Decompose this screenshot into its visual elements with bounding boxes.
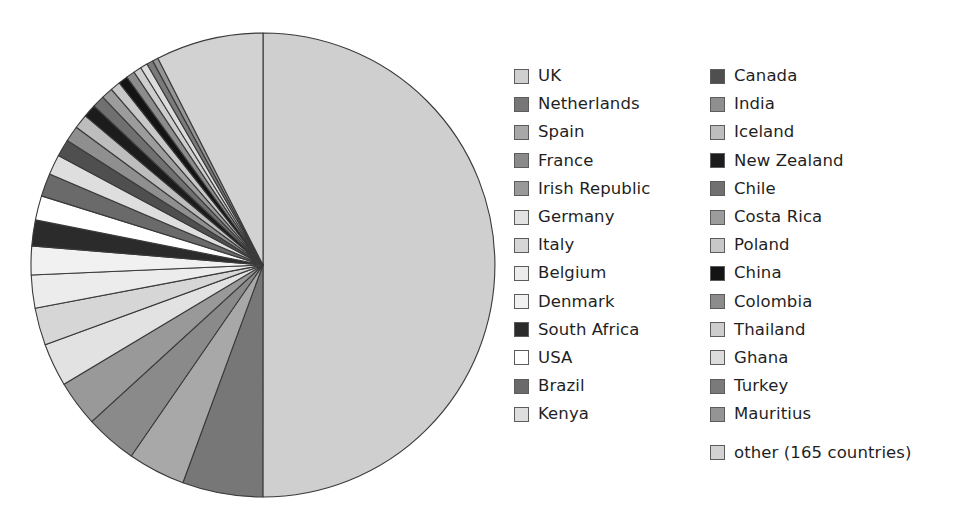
legend-swatch-icon	[710, 181, 725, 196]
legend-swatch-icon	[514, 153, 529, 168]
pie-slice-group	[31, 33, 495, 497]
legend-item[interactable]: USA	[514, 344, 710, 372]
legend-item-label: Spain	[538, 123, 585, 141]
legend-item[interactable]: Costa Rica	[710, 203, 966, 231]
legend-swatch-icon	[710, 210, 725, 225]
legend-swatch-icon	[514, 266, 529, 281]
legend-item-label: USA	[538, 349, 572, 367]
pie-chart-svg	[0, 0, 510, 507]
legend-item-label: South Africa	[538, 321, 639, 339]
legend-item[interactable]: Spain	[514, 118, 710, 146]
pie-chart-figure: UKNetherlandsSpainFranceIrish RepublicGe…	[0, 0, 970, 507]
pie-chart-plot-area	[0, 0, 510, 507]
legend-item-label: Canada	[734, 67, 797, 85]
legend-swatch-icon	[514, 407, 529, 422]
legend-swatch-icon	[514, 238, 529, 253]
legend-item-label: Belgium	[538, 264, 606, 282]
legend-item-label: Costa Rica	[734, 208, 822, 226]
legend-swatch-icon	[710, 266, 725, 281]
legend-item-label: France	[538, 152, 593, 170]
legend-item[interactable]: Brazil	[514, 372, 710, 400]
legend-item[interactable]: Belgium	[514, 259, 710, 287]
legend-item-label: Kenya	[538, 405, 589, 423]
legend-item-label: Irish Republic	[538, 180, 650, 198]
legend-swatch-icon	[514, 97, 529, 112]
legend-item-label: Mauritius	[734, 405, 811, 423]
legend-item[interactable]: Italy	[514, 231, 710, 259]
legend-swatch-icon	[514, 379, 529, 394]
legend-item[interactable]: France	[514, 147, 710, 175]
legend-item-label: Ghana	[734, 349, 788, 367]
legend-item-label: other (165 countries)	[734, 444, 912, 462]
legend-item[interactable]: Netherlands	[514, 90, 710, 118]
legend-item[interactable]: Thailand	[710, 316, 966, 344]
legend-item-label: China	[734, 264, 782, 282]
legend-item[interactable]: other (165 countries)	[710, 438, 966, 466]
legend-item-label: Colombia	[734, 293, 812, 311]
legend-item-label: Germany	[538, 208, 615, 226]
legend-column-left: UKNetherlandsSpainFranceIrish RepublicGe…	[514, 62, 710, 428]
legend-column-right: CanadaIndiaIcelandNew ZealandChileCosta …	[710, 62, 966, 467]
legend-item[interactable]: Turkey	[710, 372, 966, 400]
legend-item-label: Brazil	[538, 377, 585, 395]
legend-item-label: Denmark	[538, 293, 615, 311]
legend-item-label: Poland	[734, 236, 790, 254]
legend-item[interactable]: Germany	[514, 203, 710, 231]
legend-swatch-icon	[710, 322, 725, 337]
legend-swatch-icon	[514, 181, 529, 196]
legend-swatch-icon	[710, 153, 725, 168]
legend-item-label: Italy	[538, 236, 574, 254]
legend-item[interactable]: South Africa	[514, 316, 710, 344]
legend-item[interactable]: Mauritius	[710, 400, 966, 428]
legend-swatch-icon	[710, 407, 725, 422]
legend-item[interactable]: Chile	[710, 175, 966, 203]
pie-slice[interactable]	[263, 33, 495, 497]
legend-swatch-icon	[514, 350, 529, 365]
legend-item[interactable]: Kenya	[514, 400, 710, 428]
legend-swatch-icon	[514, 125, 529, 140]
legend-item[interactable]: Iceland	[710, 118, 966, 146]
legend-swatch-icon	[514, 69, 529, 84]
legend-swatch-icon	[514, 210, 529, 225]
legend-item[interactable]: New Zealand	[710, 147, 966, 175]
legend-item[interactable]: Irish Republic	[514, 175, 710, 203]
legend-item-label: Turkey	[734, 377, 788, 395]
legend-swatch-icon	[710, 445, 725, 460]
legend-item[interactable]: China	[710, 259, 966, 287]
legend-swatch-icon	[710, 238, 725, 253]
legend-item[interactable]: Denmark	[514, 288, 710, 316]
legend-swatch-icon	[710, 350, 725, 365]
legend-item-label: Iceland	[734, 123, 794, 141]
legend-item[interactable]: Colombia	[710, 288, 966, 316]
legend-item-label: Chile	[734, 180, 776, 198]
legend-item[interactable]: UK	[514, 62, 710, 90]
legend-item[interactable]: Canada	[710, 62, 966, 90]
legend-item[interactable]: India	[710, 90, 966, 118]
legend-item-label: UK	[538, 67, 561, 85]
chart-legend: UKNetherlandsSpainFranceIrish RepublicGe…	[514, 62, 966, 472]
legend-item[interactable]: Ghana	[710, 344, 966, 372]
legend-item-label: Thailand	[734, 321, 806, 339]
legend-item-label: Netherlands	[538, 95, 640, 113]
legend-item[interactable]: Poland	[710, 231, 966, 259]
legend-swatch-icon	[710, 294, 725, 309]
legend-swatch-icon	[710, 97, 725, 112]
legend-swatch-icon	[710, 69, 725, 84]
legend-swatch-icon	[710, 379, 725, 394]
legend-swatch-icon	[710, 125, 725, 140]
legend-item-label: New Zealand	[734, 152, 844, 170]
legend-swatch-icon	[514, 322, 529, 337]
legend-swatch-icon	[514, 294, 529, 309]
legend-item-label: India	[734, 95, 775, 113]
